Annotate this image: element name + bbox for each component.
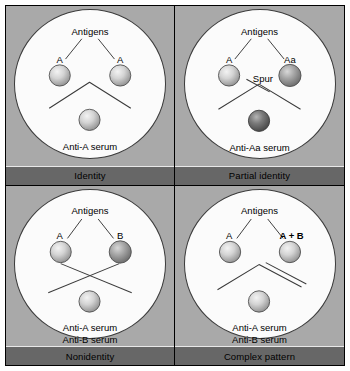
serum-label-2: Anti-B serum: [63, 334, 118, 346]
panel-complex-pattern: Antigens A A + B Anti-A serum Anti-B ser…: [175, 186, 344, 366]
well-serum: [79, 290, 100, 311]
right-well-label: B: [117, 230, 123, 242]
cross-line-b: [61, 263, 132, 292]
caption-partial-identity: Partial identity: [175, 166, 344, 185]
caption-complex-pattern: Complex pattern: [175, 346, 344, 365]
antigens-label: Antigens: [241, 205, 278, 217]
well-right: [109, 240, 131, 262]
well-right: [110, 65, 131, 86]
serum-label-2: Anti-B serum: [232, 334, 287, 346]
spur-label: Spur: [253, 73, 273, 85]
ouchterlony-figure: Antigens A A Anti-A serum Identity: [5, 5, 345, 366]
well-left: [50, 241, 71, 262]
right-well-label: A: [117, 54, 123, 66]
cross-line-a: [48, 263, 119, 292]
right-well-label: Aa: [284, 54, 296, 66]
panel-identity: Antigens A A Anti-A serum Identity: [6, 6, 175, 186]
main-arc: [217, 264, 301, 289]
caption-nonidentity: Nonidentity: [6, 346, 174, 365]
panel-partial-identity: Antigens A Aa Spur Anti-Aa serum Partial…: [175, 6, 344, 186]
serum-label-1: Anti-A serum: [63, 141, 117, 153]
left-well-label: A: [57, 54, 63, 66]
left-well-label: A: [226, 230, 232, 242]
well-right: [279, 64, 301, 86]
right-well-label: A + B: [280, 230, 304, 242]
well-left: [219, 241, 240, 262]
panel-grid: Antigens A A Anti-A serum Identity: [6, 6, 344, 365]
well-right: [279, 241, 300, 262]
antigens-label: Antigens: [241, 26, 278, 38]
left-well-label: A: [226, 54, 232, 66]
serum-label-1: Anti-A serum: [63, 322, 117, 334]
well-left: [218, 65, 239, 86]
well-left: [49, 65, 70, 86]
antigens-label: Antigens: [72, 26, 109, 38]
serum-label-1: Anti-A serum: [232, 322, 286, 334]
left-well-label: A: [57, 230, 63, 242]
panel-nonidentity: Antigens A B Anti-A serum Anti-B serum N…: [6, 186, 175, 366]
caption-identity: Identity: [6, 166, 174, 185]
well-serum: [248, 110, 269, 131]
antigens-label: Antigens: [72, 205, 109, 217]
second-line: [266, 262, 307, 283]
well-serum: [79, 109, 100, 130]
well-serum: [248, 290, 269, 311]
serum-label-1: Anti-Aa serum: [229, 142, 289, 154]
